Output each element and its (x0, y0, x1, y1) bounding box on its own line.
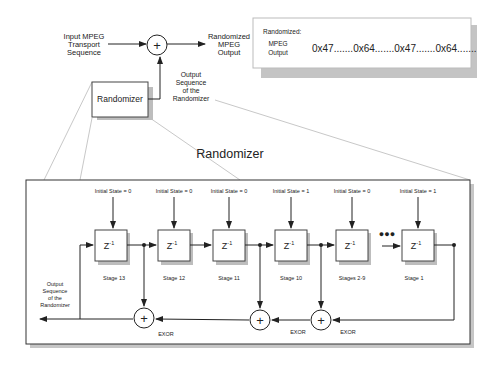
svg-text:Output: Output (47, 281, 64, 287)
svg-text:Initial State = 0: Initial State = 0 (156, 188, 193, 194)
svg-text:Randomizer: Randomizer (97, 94, 143, 104)
top-xor-adder: + (147, 35, 167, 55)
svg-text:Initial State = 0: Initial State = 0 (211, 188, 248, 194)
detail-title: Randomizer (196, 147, 263, 161)
svg-text:Output: Output (218, 48, 241, 57)
randomizer-box: Randomizer (92, 82, 153, 120)
svg-text:EXOR: EXOR (158, 331, 174, 337)
svg-text:of the: of the (182, 87, 199, 94)
ellipsis-dots: ●●● (379, 229, 395, 239)
svg-text:+: + (140, 311, 148, 326)
svg-text:Randomizer: Randomizer (40, 302, 70, 308)
svg-text:Initial State = 0: Initial State = 0 (95, 188, 132, 194)
svg-text:Sequence: Sequence (43, 288, 68, 294)
svg-text:Sequence: Sequence (176, 79, 207, 87)
svg-text:0x47.......0x64.......0x47....: 0x47.......0x64.......0x47.......0x64...… (312, 43, 477, 54)
randomizer-diagram: Input MPEG Transport Sequence + Randomiz… (0, 0, 499, 366)
svg-text:Stage 10: Stage 10 (280, 275, 302, 281)
svg-text:EXOR: EXOR (290, 329, 306, 335)
svg-text:Randomizer: Randomizer (173, 95, 210, 102)
svg-text:Stage 11: Stage 11 (218, 275, 240, 281)
input-label: Input MPEG Transport Sequence (64, 32, 105, 57)
output-label: Randomized MPEG Output (208, 32, 250, 57)
svg-text:Stages 2-9: Stages 2-9 (339, 275, 366, 281)
svg-text:EXOR: EXOR (340, 329, 356, 335)
svg-text:+: + (317, 313, 325, 328)
svg-text:Sequence: Sequence (67, 48, 101, 57)
svg-text:+: + (153, 38, 161, 53)
svg-text:Stage 1: Stage 1 (405, 275, 424, 281)
svg-text:Randomized:: Randomized: (263, 28, 301, 35)
svg-text:MPEG: MPEG (268, 40, 287, 47)
svg-text:Initial State = 1: Initial State = 1 (400, 188, 437, 194)
feedback-label: Output Sequence of the Randomizer (173, 71, 210, 102)
svg-text:Initial State = 1: Initial State = 1 (273, 188, 310, 194)
svg-text:Stage 12: Stage 12 (163, 275, 185, 281)
svg-text:Output: Output (268, 49, 288, 57)
svg-text:Stage 13: Stage 13 (103, 275, 125, 281)
svg-text:of the: of the (48, 295, 62, 301)
svg-text:Initial State = 0: Initial State = 0 (334, 188, 371, 194)
svg-text:Output: Output (181, 71, 202, 79)
svg-text:+: + (256, 313, 264, 328)
output-panel: Randomized: MPEG Output 0x47.......0x64.… (253, 18, 477, 78)
